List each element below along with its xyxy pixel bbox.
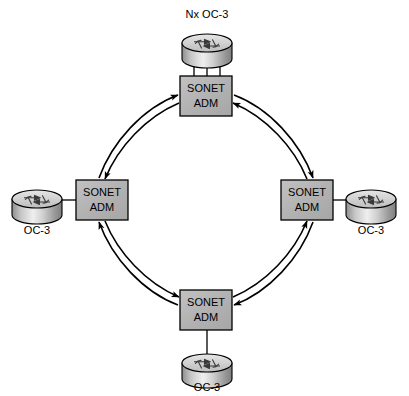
router-right[interactable]: OC-3 (346, 190, 396, 236)
adm-top-label-line1: SONET (187, 82, 225, 94)
router-bottom-label: OC-3 (194, 381, 220, 393)
ring-arc-bottom-to-right-inner (233, 221, 307, 297)
router-top[interactable]: Nx OC-3 (182, 8, 232, 68)
adm-node-top[interactable]: SONET ADM (180, 76, 232, 116)
ring-arc-top-to-left-inner (105, 103, 179, 179)
router-right-label: OC-3 (358, 224, 384, 236)
ring-arc-right-to-top-inner (233, 103, 307, 179)
adm-left-label-line2: ADM (90, 201, 114, 213)
adm-node-bottom[interactable]: SONET ADM (180, 290, 232, 330)
adm-bottom-label-line2: ADM (194, 311, 218, 323)
sonet-ring-diagram: Nx OC-3 OC-3 OC-3 OC-3 (0, 0, 409, 396)
adm-bottom-label-line1: SONET (187, 296, 225, 308)
router-left-label: OC-3 (24, 224, 50, 236)
router-bottom[interactable]: OC-3 (182, 354, 232, 393)
ring-arc-left-to-bottom-inner (105, 221, 179, 297)
diagram-canvas: Nx OC-3 OC-3 OC-3 OC-3 (0, 0, 409, 396)
adm-right-label-line1: SONET (288, 186, 326, 198)
adm-node-right[interactable]: SONET ADM (281, 180, 333, 220)
adm-node-left[interactable]: SONET ADM (76, 180, 128, 220)
router-left[interactable]: OC-3 (12, 190, 62, 236)
adm-top-label-line2: ADM (194, 97, 218, 109)
adm-left-label-line1: SONET (83, 186, 121, 198)
router-top-label: Nx OC-3 (186, 8, 229, 20)
adm-right-label-line2: ADM (295, 201, 319, 213)
